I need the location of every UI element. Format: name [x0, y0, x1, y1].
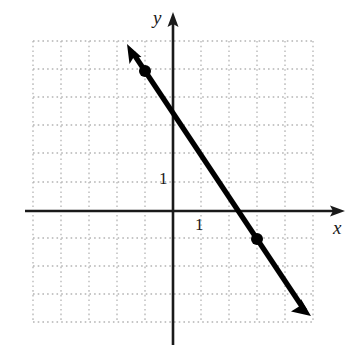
x-axis-label: x — [333, 218, 341, 237]
graph-screenshot: y x 1 1 — [0, 0, 352, 358]
y-axis-unit-tick-label: 1 — [159, 170, 168, 187]
marked-point-lower — [251, 233, 263, 245]
y-axis-label: y — [153, 8, 161, 27]
x-axis-unit-tick-label: 1 — [195, 216, 204, 233]
marked-point-upper — [139, 65, 151, 77]
coordinate-plane-figure — [0, 0, 352, 358]
